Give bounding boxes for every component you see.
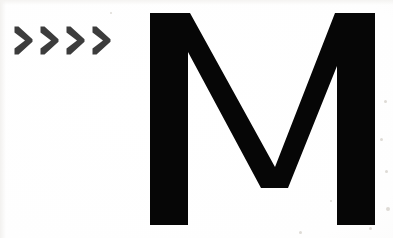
chevron-arrow-group: >>>>: [13, 26, 117, 55]
scan-speck: [384, 100, 387, 103]
chevron-right-icon-1: [13, 26, 34, 55]
scan-speck: [380, 138, 383, 141]
scan-speck: [299, 231, 302, 234]
scan-speck: [110, 12, 112, 14]
scan-speck: [369, 227, 372, 230]
scan-speck: [386, 207, 390, 211]
scan-speck: [330, 200, 332, 202]
chevron-right-icon-4: [91, 26, 112, 55]
chevron-right-icon-3: [65, 26, 86, 55]
paper-edge-top: [0, 0, 393, 5]
paper-edge-left: [0, 0, 6, 238]
chevron-right-icon-2: [39, 26, 60, 55]
scanned-image-canvas: >>>> M: [0, 0, 393, 238]
scan-speck: [385, 170, 388, 173]
letter-m-glyph: M: [148, 12, 377, 226]
